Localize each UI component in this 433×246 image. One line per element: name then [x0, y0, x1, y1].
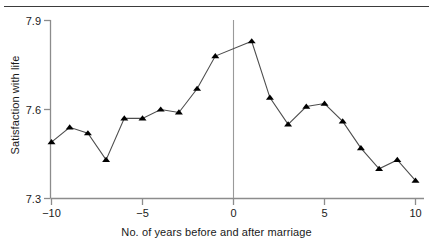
data-point-marker [102, 157, 110, 162]
x-tick-label-pos10: 10 [409, 207, 421, 219]
data-point-marker [66, 124, 74, 129]
data-point-marker [157, 106, 165, 111]
data-point-marker [266, 95, 274, 100]
chart-figure: Satisfaction with life No. of years befo… [0, 0, 433, 246]
x-tick-label-neg10: −10 [42, 207, 61, 219]
data-point-marker [248, 38, 256, 43]
x-tick-label-neg5: −5 [136, 207, 149, 219]
x-axis-ticks [52, 199, 416, 206]
data-point-marker [357, 145, 365, 150]
y-tick-label-top: 7.9 [26, 15, 41, 27]
data-point-marker [211, 53, 219, 58]
data-point-marker [193, 86, 201, 91]
data-point-marker [375, 166, 383, 171]
data-point-marker [393, 157, 401, 162]
chart-plot-area: 7.9 7.6 7.3 −10 −5 0 5 10 [0, 0, 433, 246]
x-tick-label-zero: 0 [230, 207, 236, 219]
y-tick-label-bottom: 7.3 [26, 193, 41, 205]
x-tick-label-pos5: 5 [321, 207, 327, 219]
data-point-marker [321, 100, 329, 105]
data-point-marker [412, 178, 420, 183]
y-axis-ticks [44, 21, 51, 199]
y-tick-label-mid: 7.6 [26, 104, 41, 116]
